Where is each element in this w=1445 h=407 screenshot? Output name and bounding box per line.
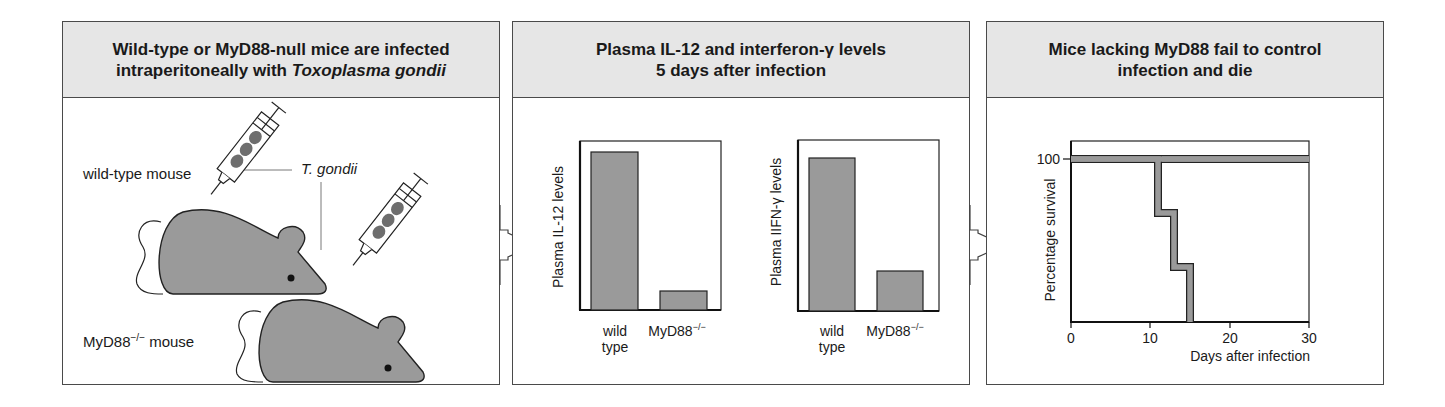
y-axis-label: Plasma IIFN-γ levels	[768, 158, 784, 286]
syringe-icon	[344, 172, 429, 272]
x-axis-label: Days after infection	[1190, 348, 1310, 364]
myd88-mouse-label: MyD88−/− mouse	[83, 332, 194, 350]
panel-survival: Mice lacking MyD88 fail to control infec…	[986, 21, 1384, 385]
x-tick-type: type	[819, 339, 846, 355]
y-axis-label: Percentage survival	[1042, 179, 1058, 302]
infection-illustration: wild-type mouse MyD88−/− mouse T. gondii	[63, 22, 501, 386]
x-tick-type: type	[602, 339, 629, 355]
x-tick-10: 10	[1142, 330, 1158, 346]
bar-wild-type	[591, 152, 638, 310]
x-tick-myd88: MyD88−/−	[648, 322, 705, 339]
panel-cytokine-levels: Plasma IL-12 and interferon-γ levels 5 d…	[512, 21, 970, 385]
ifng-bar-chart: Plasma IIFN-γ levels wild type MyD88−/−	[768, 140, 939, 355]
x-tick-wild: wild	[819, 323, 844, 339]
survival-chart: 100 0 10 20 30 Days after infection Perc…	[987, 22, 1385, 386]
x-tick-0: 0	[1067, 330, 1075, 346]
panel-infection: Wild-type or MyD88-null mice are infecte…	[62, 21, 500, 385]
x-tick-wild: wild	[602, 323, 627, 339]
bar-myd88	[660, 291, 707, 310]
y-tick-100: 100	[1037, 151, 1061, 167]
il12-bar-chart: Plasma IL-12 levels wild type MyD88−/−	[550, 141, 721, 355]
t-gondii-label: T. gondii	[301, 160, 358, 177]
bar-myd88	[877, 271, 923, 311]
cytokine-bar-charts: Plasma IL-12 levels wild type MyD88−/− P…	[513, 22, 971, 386]
wild-type-mouse-label: wild-type mouse	[82, 165, 191, 182]
y-axis-label: Plasma IL-12 levels	[550, 166, 566, 288]
myd88-mouse-icon	[236, 300, 424, 382]
bar-wild-type	[809, 158, 855, 311]
wild-type-mouse-icon	[136, 210, 326, 294]
x-tick-myd88: MyD88−/−	[866, 322, 923, 339]
x-tick-20: 20	[1222, 330, 1238, 346]
x-tick-30: 30	[1301, 330, 1317, 346]
syringe-icon	[202, 101, 287, 201]
